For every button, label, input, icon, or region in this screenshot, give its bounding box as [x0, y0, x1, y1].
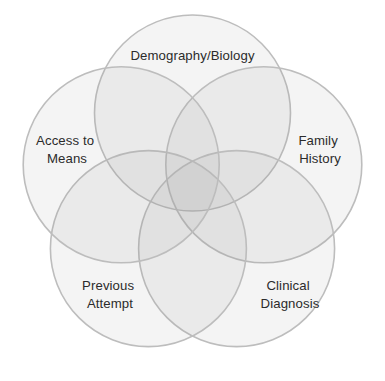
label-family-history-line2: History — [299, 151, 341, 166]
label-access-to-means-line1: Access to — [36, 133, 94, 148]
label-family-history-line1: Family — [298, 133, 338, 148]
label-clinical-diagnosis-line2: Diagnosis — [261, 296, 320, 311]
venn-diagram-canvas: Demography/Biology Family History Clinic… — [0, 0, 385, 381]
label-demography-biology: Demography/Biology — [130, 48, 255, 63]
label-demography-biology-line1: Demography/Biology — [130, 48, 255, 63]
label-previous-attempt-line2: Attempt — [87, 296, 133, 311]
venn-diagram-container: Demography/Biology Family History Clinic… — [0, 0, 385, 381]
label-previous-attempt-line1: Previous — [82, 278, 134, 293]
label-clinical-diagnosis-line1: Clinical — [266, 278, 309, 293]
label-access-to-means-line2: Means — [47, 151, 87, 166]
